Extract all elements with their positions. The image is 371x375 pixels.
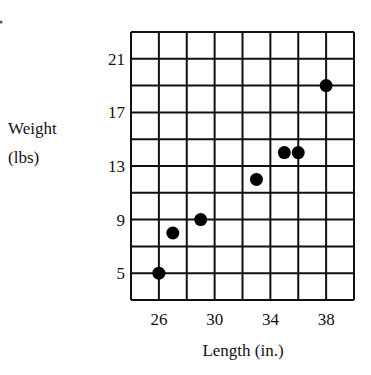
- y-tick-label: 9: [117, 211, 126, 230]
- x-tick-label: 30: [206, 310, 223, 329]
- grid: [131, 32, 354, 300]
- stray-dot: [0, 20, 3, 23]
- data-point: [166, 227, 179, 240]
- x-axis-ticks: 26303438: [150, 310, 334, 329]
- y-tick-label: 21: [108, 50, 125, 69]
- x-tick-label: 38: [318, 310, 335, 329]
- y-tick-label: 13: [108, 157, 125, 176]
- data-point: [250, 173, 263, 186]
- y-tick-label: 5: [117, 264, 126, 283]
- data-point: [194, 213, 207, 226]
- x-tick-label: 26: [150, 310, 167, 329]
- data-point: [320, 79, 333, 92]
- y-axis-label-line1: Weight: [8, 119, 57, 138]
- y-axis-label-line2: (lbs): [8, 148, 39, 167]
- y-axis-ticks: 59131721: [108, 50, 126, 283]
- data-point: [152, 267, 165, 280]
- x-axis-label: Length (in.): [202, 341, 283, 360]
- scatter-chart: 26303438 59131721 Length (in.) Weight (l…: [0, 0, 371, 375]
- data-point: [278, 146, 291, 159]
- y-tick-label: 17: [108, 103, 126, 122]
- data-point: [292, 146, 305, 159]
- x-tick-label: 34: [262, 310, 280, 329]
